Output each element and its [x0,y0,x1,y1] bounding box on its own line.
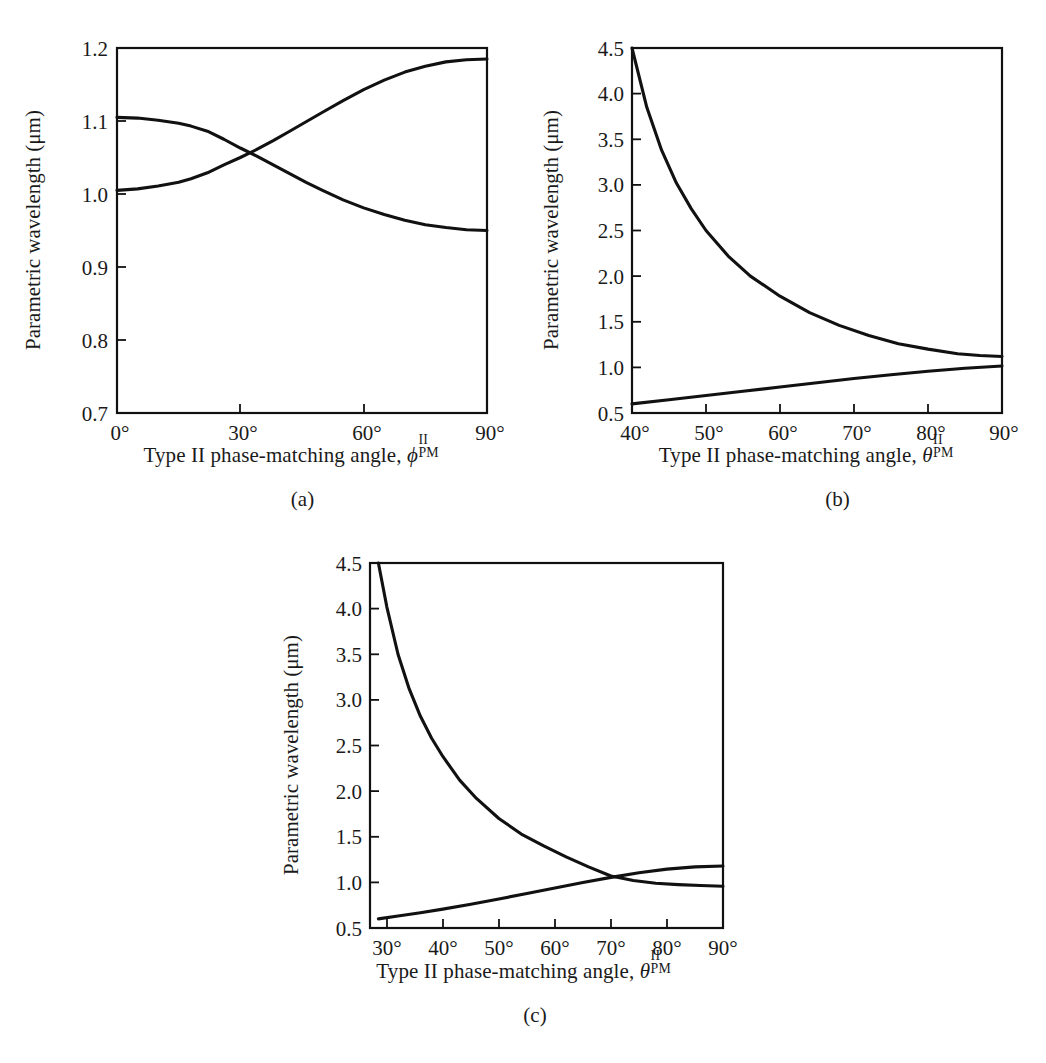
panel-c-plot: Parametric wavelength (μm) 0.5 1.0 1.5 2… [260,525,790,965]
panel-a-ytick-4: 1.1 [82,110,108,134]
panel-a-xtick-3: 90° [475,421,504,440]
panel-c-x-axis-affixes: IIPM [651,957,694,978]
panel-c-ytick-2: 1.5 [336,825,362,849]
panel-c-curve-descending [378,563,723,886]
panel-b-ytick-3: 2.0 [598,265,624,289]
panel-c-ytick-4: 2.5 [336,734,362,758]
panel-a-ytick-0: 0.7 [82,402,108,426]
panel-a-xtick-1: 30° [228,421,257,440]
panel-b-ytick-6: 3.5 [598,128,624,152]
panel-b-ytick-8: 4.5 [598,37,624,61]
panel-c-curve-ascending [378,866,723,919]
panel-a-x-axis-symbol: ϕ [407,443,418,467]
panel-b-caption: (b) [740,487,935,512]
panel-a-y-axis-label: Parametric wavelength (μm) [21,110,45,350]
panel-c-ytick-1: 1.0 [336,871,362,895]
panel-b-y-axis-label: Parametric wavelength (μm) [539,110,563,350]
panel-c-x-axis-label: Type II phase-matching angle, θIIPM [335,957,735,984]
panel-a-plot: Parametric wavelength (μm) 0.7 0.8 0.9 1… [0,0,510,440]
panel-a-x-axis-label-prefix: Type II phase-matching angle, [144,443,407,467]
panel-a-x-axis-label: Type II phase-matching angle, ϕIIPM [110,441,495,468]
panel-b-x-axis-affixes: IIPM [933,441,976,462]
panel-a-ytick-2: 0.9 [82,256,108,280]
panel-c-ytick-6: 3.5 [336,643,362,667]
panel-b-ytick-4: 2.5 [598,219,624,243]
panel-c-y-axis-label: Parametric wavelength (μm) [279,635,303,875]
panel-b-ytick-1: 1.0 [598,356,624,380]
panel-a-xtick-0: 0° [111,421,130,440]
panel-c-x-axis-label-prefix: Type II phase-matching angle, [376,959,639,983]
panel-b-xtick-1: 50° [694,421,723,440]
figure-root: Parametric wavelength (μm) 0.7 0.8 0.9 1… [0,0,1046,1063]
panel-b-x-axis-label: Type II phase-matching angle, θIIPM [620,441,1015,468]
panel-c: Parametric wavelength (μm) 0.5 1.0 1.5 2… [260,525,790,965]
panel-b-xtick-5: 90° [989,421,1018,440]
panel-a-ytick-3: 1.0 [82,183,108,207]
panel-b-x-axis-symbol: θ [922,443,932,467]
panel-a-ytick-5: 1.2 [82,37,108,61]
panel-b-x-axis-label-prefix: Type II phase-matching angle, [659,443,922,467]
panel-b-curve-descending [632,48,1002,356]
panel-a-x-axis-affixes: IIPM [418,441,461,462]
panel-c-ytick-0: 0.5 [336,917,362,941]
panel-c-ytick-3: 2.0 [336,780,362,804]
panel-b-xtick-0: 40° [620,421,649,440]
panel-b-curve-ascending [632,366,1002,404]
panel-a-x-axis-subscript: PM [418,445,438,461]
panel-b: Parametric wavelength (μm) 0.5 1.0 1.5 2… [520,0,1046,440]
panel-a-curve-ascending [117,59,487,190]
panel-c-ytick-5: 3.0 [336,688,362,712]
panel-b-ytick-5: 3.0 [598,173,624,197]
panel-b-ytick-7: 4.0 [598,82,624,106]
panel-b-axes-frame [632,48,1002,413]
panel-a-xtick-2: 60° [352,421,381,440]
panel-c-ytick-7: 4.0 [336,597,362,621]
panel-c-ytick-8: 4.5 [336,552,362,576]
panel-a-curve-descending-real [117,117,487,230]
panel-c-x-axis-subscript: PM [651,961,671,977]
panel-c-caption: (c) [335,1003,735,1028]
panel-b-xtick-3: 70° [842,421,871,440]
panel-c-axes-frame [370,563,723,928]
panel-b-xtick-2: 60° [768,421,797,440]
panel-a-caption: (a) [110,487,495,512]
panel-b-plot: Parametric wavelength (μm) 0.5 1.0 1.5 2… [520,0,1046,440]
panel-a-axes-frame [117,48,487,413]
panel-b-x-axis-subscript: PM [933,445,953,461]
panel-a: Parametric wavelength (μm) 0.7 0.8 0.9 1… [0,0,510,440]
panel-c-x-axis-symbol: θ [640,959,650,983]
panel-a-ytick-1: 0.8 [82,329,108,353]
panel-b-ytick-2: 1.5 [598,310,624,334]
